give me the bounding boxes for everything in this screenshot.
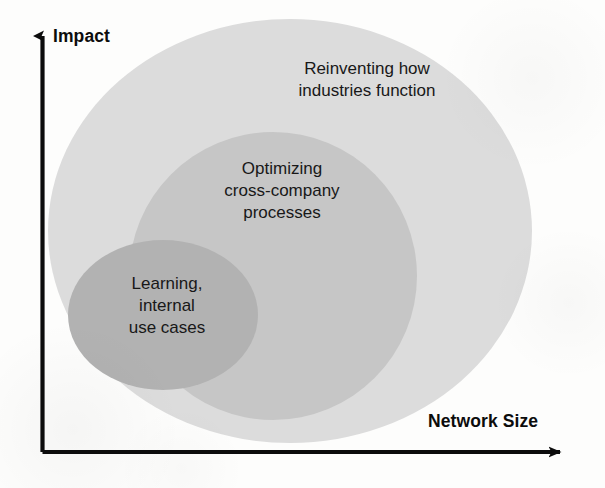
outer-stage-label: Reinventing how industries function (252, 58, 482, 102)
x-axis-label: Network Size (428, 411, 538, 432)
inner-stage-label: Learning, internal use cases (92, 273, 242, 339)
diagram-canvas: Impact Network Size Reinventing how indu… (0, 0, 605, 488)
y-axis-label: Impact (53, 26, 110, 47)
middle-stage-label: Optimizing cross-company processes (182, 158, 382, 224)
